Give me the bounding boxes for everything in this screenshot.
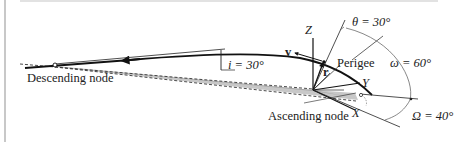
arc-junction [410, 98, 413, 101]
true-anomaly-label: θ = 30° [352, 15, 390, 29]
orbit-diagram: i = 30° Descending node Z Y X r v Perige… [0, 0, 474, 142]
ascending-node-label: Ascending node [268, 109, 349, 123]
descending-node-marker [53, 63, 57, 67]
perigee-label: Perigee [337, 56, 375, 70]
raan-label: Ω = 40° [412, 109, 453, 123]
inclination-label: i = 30° [228, 58, 264, 72]
velocity-vector-label: v [285, 45, 292, 59]
descending-node-label: Descending node [27, 71, 114, 85]
z-axis-label: Z [305, 23, 313, 37]
orbit-direction-arrow [125, 59, 140, 61]
y-axis [313, 83, 360, 90]
raan-small-arc [362, 95, 367, 106]
y-axis-label: Y [362, 76, 371, 90]
arg-perigee-label: ω = 60° [390, 56, 431, 70]
orbital-plane-edge [55, 49, 225, 64]
apse-line [313, 20, 345, 90]
reference-line-right [360, 94, 418, 99]
